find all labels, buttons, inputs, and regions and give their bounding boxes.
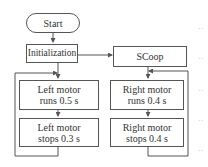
edge-dots: ·· — [198, 54, 203, 63]
edge-dots: ·· — [198, 86, 203, 95]
left-motor-run-label: Left motor runs 0.5 s — [29, 84, 89, 106]
init-box: Initialization — [26, 44, 78, 63]
right-motor-stop-box: Right motor stops 0.4 s — [110, 118, 184, 147]
right-motor-run-label: Right motor runs 0.4 s — [116, 84, 178, 106]
left-motor-stop-box: Left motor stops 0.3 s — [19, 118, 99, 147]
right-motor-run-box: Right motor runs 0.4 s — [110, 80, 184, 110]
init-label: Initialization — [28, 48, 77, 59]
right-motor-stop-label: Right motor stops 0.4 s — [116, 122, 178, 144]
edge-dots: ·· — [198, 146, 203, 155]
start-terminal: Start — [26, 13, 80, 33]
scoop-box: SCoop — [113, 46, 187, 67]
start-label: Start — [44, 18, 63, 29]
scoop-label: SCoop — [136, 51, 163, 62]
left-motor-stop-label: Left motor stops 0.3 s — [29, 122, 89, 144]
edge-dots: ·· — [198, 24, 203, 33]
edge-dots: ·· — [198, 116, 203, 125]
left-motor-run-box: Left motor runs 0.5 s — [19, 80, 99, 110]
